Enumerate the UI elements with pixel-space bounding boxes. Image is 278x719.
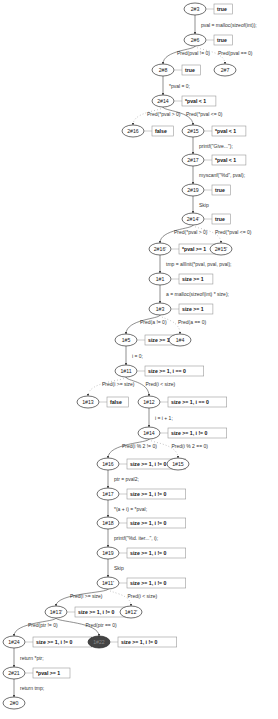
graph-node[interactable]: 2#0 xyxy=(3,697,25,709)
graph-node[interactable]: 2#16false xyxy=(122,125,174,137)
node-label: 1#19 xyxy=(102,550,114,556)
node-label: 2#8 xyxy=(159,67,168,73)
edge-label: Pred(ptr != 0) xyxy=(28,622,58,628)
graph-node[interactable]: 2#14*pval < 1 xyxy=(152,95,216,107)
node-label: 1#22 xyxy=(93,639,105,645)
node-label: 2#14 xyxy=(157,98,169,104)
edge-label: return *ptr; xyxy=(20,655,44,661)
graph-node[interactable]: 2#14'true xyxy=(182,213,230,225)
node-label: 2#15' xyxy=(215,246,228,252)
graph-node[interactable]: 2#21*pval >= 1 xyxy=(3,667,70,679)
graph-node[interactable]: 2#8true xyxy=(152,64,200,76)
node-label: 1#11' xyxy=(102,580,114,586)
node-label: 1#5 xyxy=(122,337,131,343)
edge-label: Skip xyxy=(114,565,124,571)
graph-node[interactable]: 1#14size >= 1, i != 0 xyxy=(138,427,227,439)
edges-layer: pval = malloc(sizeof(int));Pred(pval != … xyxy=(14,15,257,697)
edge: Pred(i >= size) xyxy=(88,377,135,396)
edge: printf("Give..."); xyxy=(193,137,233,154)
state-label: true xyxy=(217,6,227,12)
edge-label: Pred(a != 0) xyxy=(140,319,167,325)
graph-node[interactable]: 1#19size >= 1, i != 0 xyxy=(97,547,186,559)
edge-label: Pred(i % 2 == 0) xyxy=(172,443,209,449)
state-label: *pval < 1 xyxy=(215,128,236,134)
edge: Pred(i % 2 != 0) xyxy=(108,439,157,458)
edge-label: Pred(i < size) xyxy=(146,381,176,387)
graph-node[interactable]: 2#3true xyxy=(184,3,232,15)
edge: a = malloc(sizeof(int) * size); xyxy=(160,285,229,303)
graph-node[interactable]: 1#12' xyxy=(120,606,142,618)
state-label: size >= 1, i != 0 xyxy=(130,491,167,497)
state-label: *pval >= 1 xyxy=(36,670,60,676)
state-label: size >= 1, i == 0 xyxy=(148,368,186,374)
state-label: true xyxy=(215,216,225,222)
graph-node[interactable]: 2#6true xyxy=(184,34,232,46)
graph-node[interactable]: 1#17size >= 1, i != 0 xyxy=(97,488,186,500)
graph-node[interactable]: 2#16'*pval >= 1 xyxy=(149,243,216,255)
node-label: 1#15 xyxy=(172,461,184,467)
edge-label: tmp = allInit(*pval, pval, pval); xyxy=(166,261,231,267)
graph-node[interactable]: 1#1size >= 1 xyxy=(149,273,213,285)
node-label: 1#14 xyxy=(143,430,155,436)
state-label: size >= 1, i != 0 xyxy=(78,609,115,615)
edge-label: Pred(ptr == 0) xyxy=(86,622,117,628)
node-label: 1#13 xyxy=(82,399,94,405)
edge: *pval = 0; xyxy=(163,76,190,95)
graph-node[interactable]: 1#11size >= 1, i == 0 xyxy=(115,365,204,377)
state-label: *pval < 1 xyxy=(215,157,236,163)
node-label: 2#3 xyxy=(191,6,200,12)
edge-label: Skip xyxy=(199,202,209,208)
node-label: 1#3 xyxy=(156,306,165,312)
graph-node[interactable]: 2#19true xyxy=(182,184,230,196)
edge: Pred(ptr != 0) xyxy=(14,618,58,636)
edge-label: Pred(pval == 0) xyxy=(218,50,253,56)
state-label: *pval < 1 xyxy=(185,98,206,104)
edge: i = i + 1; xyxy=(149,408,173,427)
edge: Pred(a != 0) xyxy=(126,315,167,334)
state-label: true xyxy=(185,67,195,73)
edge-label: *(a + i) = *pval; xyxy=(114,506,147,512)
reachability-graph: pval = malloc(sizeof(int));Pred(pval != … xyxy=(0,0,278,719)
edge: Pred(ptr == 0) xyxy=(56,618,117,636)
state-label: size >= 1 xyxy=(182,306,204,312)
edge-label: printf("Give..."); xyxy=(199,143,233,149)
node-label: 1#11 xyxy=(120,368,131,374)
graph-node[interactable]: 1#13false xyxy=(77,396,129,408)
edge-label: printf("%d. iter...", i); xyxy=(114,535,158,541)
graph-node[interactable]: 2#7 xyxy=(214,64,236,76)
edge-label: i = i + 1; xyxy=(155,415,173,421)
edge: return *ptr; xyxy=(14,648,44,667)
edge-label: Pred(*pval <= 0) xyxy=(186,111,223,117)
edge-label: a = malloc(sizeof(int) * size); xyxy=(166,291,229,297)
state-label: size >= 1, i != 0 xyxy=(121,639,158,645)
edge: ptr = pval2; xyxy=(108,470,139,488)
edge-label: pval = malloc(sizeof(int)); xyxy=(201,22,257,28)
edge-label: myscanf("%d", pval); xyxy=(199,172,245,178)
state-label: size >= 1, i == 0 xyxy=(171,399,209,405)
edge-label: Pred(*pval <= 0) xyxy=(215,229,252,235)
graph-node[interactable]: 1#24size >= 1, i != 0 xyxy=(3,636,92,648)
graph-node[interactable]: 1#22size >= 1, i != 0 xyxy=(88,636,177,648)
node-label: 2#21 xyxy=(8,670,20,676)
graph-node[interactable]: 1#4 xyxy=(169,334,191,346)
edge-label: Pred(a == 0) xyxy=(178,319,206,325)
graph-node[interactable]: 1#12size >= 1, i == 0 xyxy=(138,396,227,408)
graph-node[interactable]: 2#15*pval < 1 xyxy=(182,125,246,137)
graph-node[interactable]: 2#15' xyxy=(210,243,232,255)
graph-node[interactable]: 2#17*pval < 1 xyxy=(182,154,246,166)
graph-node[interactable]: 1#3size >= 1 xyxy=(149,303,213,315)
node-label: 2#16' xyxy=(154,246,167,252)
edge-label: return tmp; xyxy=(20,685,44,691)
state-label: false xyxy=(155,128,167,134)
state-label: size >= 1, i != 0 xyxy=(130,580,167,586)
state-label: size >= 1, i != 0 xyxy=(171,430,208,436)
graph-node[interactable]: 1#15 xyxy=(167,458,189,470)
state-label: size >= 1 xyxy=(148,337,170,343)
graph-node[interactable]: 1#18size >= 1, i != 0 xyxy=(97,517,186,529)
state-label: size >= 1, i != 0 xyxy=(130,520,167,526)
edge: Pred(i >= size) xyxy=(56,589,108,606)
node-label: 2#16 xyxy=(127,128,139,134)
node-label: 1#12' xyxy=(125,609,138,615)
node-label: 2#15 xyxy=(187,128,199,134)
graph-node[interactable]: 1#11'size >= 1, i != 0 xyxy=(97,577,186,589)
